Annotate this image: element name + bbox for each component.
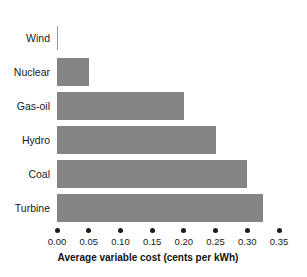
tick-dot-icon [118,228,123,233]
x-tick-label: 0.15 [136,236,168,247]
tick-dot-icon [150,228,155,233]
bar-coal [57,160,247,188]
bar-turbine [57,194,263,222]
bar-row: Turbine [0,194,307,222]
x-tick-label: 0.20 [168,236,200,247]
x-tick-label: 0.35 [263,236,295,247]
x-axis-title: Average variable cost (cents per kWh) [0,252,296,263]
x-tick-label: 0.05 [73,236,105,247]
bar-row: Coal [0,160,307,188]
bar-row: Hydro [0,126,307,154]
bar-chart: WindNuclearGas-oilHydroCoalTurbine Avera… [0,0,307,277]
category-label-hydro: Hydro [0,126,50,154]
bar-row: Gas-oil [0,92,307,120]
tick-dot-icon [181,228,186,233]
category-label-nuclear: Nuclear [0,58,50,86]
category-label-turbine: Turbine [0,194,50,222]
category-label-gas-oil: Gas-oil [0,92,50,120]
bar-gas-oil [57,92,184,120]
x-tick-label: 0.25 [200,236,232,247]
x-tick-label: 0.30 [231,236,263,247]
tick-dot-icon [86,228,91,233]
x-tick-label: 0.00 [41,236,73,247]
x-tick-label: 0.10 [104,236,136,247]
tick-dot-icon [277,228,282,233]
x-axis: Average variable cost (cents per kWh) 0.… [0,228,307,277]
bar-row: Wind [0,24,307,52]
bar-row: Nuclear [0,58,307,86]
category-label-wind: Wind [0,24,50,52]
bar-wind [57,26,58,50]
bar-hydro [57,126,216,154]
bar-nuclear [57,58,89,86]
tick-dot-icon [55,228,60,233]
tick-dot-icon [213,228,218,233]
plot-area: WindNuclearGas-oilHydroCoalTurbine [0,0,307,230]
category-label-coal: Coal [0,160,50,188]
tick-dot-icon [245,228,250,233]
